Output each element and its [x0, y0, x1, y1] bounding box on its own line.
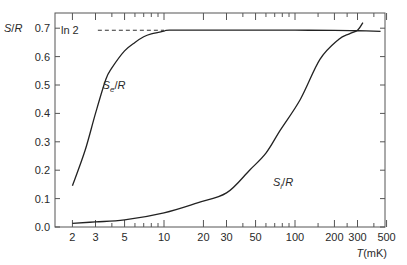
- labels: 0.00.10.20.30.40.50.60.72351020305010020…: [4, 22, 396, 259]
- y-tick-label: 0.1: [35, 193, 50, 205]
- y-tick-label: 0.3: [35, 136, 50, 148]
- se-curve: [72, 30, 380, 186]
- x-tick-label: 300: [348, 231, 366, 243]
- x-tick-label: 200: [325, 231, 343, 243]
- x-tick-label: 50: [249, 231, 261, 243]
- y-tick-label: 0.6: [35, 51, 50, 63]
- x-tick-label: 5: [122, 231, 128, 243]
- x-tick-label: 2: [69, 231, 75, 243]
- y-tick-label: 0.5: [35, 79, 50, 91]
- ln2-label: ln 2: [61, 24, 79, 36]
- x-tick-label: 500: [377, 231, 395, 243]
- x-tick-label: 10: [158, 231, 170, 243]
- x-axis-label: T(mK): [356, 247, 387, 259]
- x-tick-label: 3: [92, 231, 98, 243]
- x-tick-label: 100: [286, 231, 304, 243]
- y-axis-label: S/R: [4, 22, 22, 34]
- x-tick-label: 30: [220, 231, 232, 243]
- axes: [55, 13, 385, 227]
- y-tick-label: 0.4: [35, 107, 50, 119]
- plot-frame: [55, 13, 385, 227]
- si-curve-label: Si/R: [273, 176, 293, 191]
- si-curve: [72, 23, 362, 224]
- x-tick-label: 20: [197, 231, 209, 243]
- y-tick-label: 0.2: [35, 164, 50, 176]
- y-tick-label: 0.7: [35, 22, 50, 34]
- y-tick-label: 0.0: [35, 221, 50, 233]
- curves: [72, 23, 380, 224]
- axis-ticks: [55, 13, 387, 227]
- se-curve-label: Se/R: [103, 79, 126, 94]
- entropy-chart: 0.00.10.20.30.40.50.60.72351020305010020…: [0, 0, 407, 265]
